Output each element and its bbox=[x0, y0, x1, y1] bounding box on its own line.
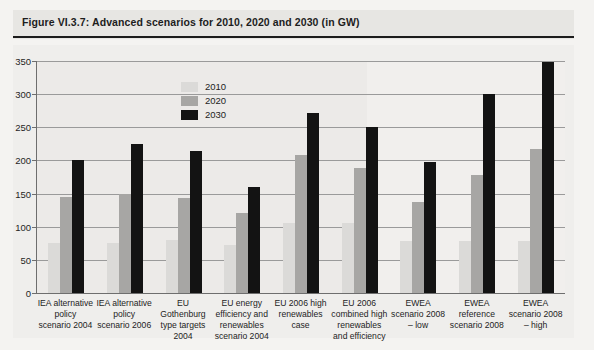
legend-swatch-2020 bbox=[181, 96, 198, 106]
x-axis-label: EU energy efficiency and renewables scen… bbox=[212, 298, 271, 342]
y-tick-label: 0 bbox=[26, 288, 31, 299]
legend-swatch-2030 bbox=[181, 110, 198, 120]
y-tick-label: 150 bbox=[15, 188, 31, 199]
bar-2020 bbox=[354, 168, 366, 293]
x-axis-label: EU 2006 high renewables case bbox=[271, 298, 330, 342]
bar-group bbox=[37, 61, 96, 293]
bar-2020 bbox=[471, 175, 483, 293]
bar-group bbox=[330, 61, 389, 293]
bar-2030 bbox=[366, 127, 378, 293]
bar-2030 bbox=[483, 94, 495, 293]
bar-2030 bbox=[190, 151, 202, 294]
bar-group bbox=[506, 61, 565, 293]
bar-2020 bbox=[295, 155, 307, 293]
bar-group bbox=[272, 61, 331, 293]
bar-2030 bbox=[542, 62, 554, 293]
legend-label: 2010 bbox=[205, 81, 226, 92]
y-tick-label: 50 bbox=[20, 254, 31, 265]
chart-legend: 201020202030 bbox=[181, 81, 226, 120]
bar-2020 bbox=[119, 194, 131, 293]
x-axis-labels: IEA alternative policy scenario 2004IEA … bbox=[36, 298, 565, 342]
bar-2030 bbox=[72, 160, 84, 293]
bar-2020 bbox=[530, 149, 542, 293]
legend-item: 2010 bbox=[181, 81, 226, 92]
page-title: Figure VI.3.7: Advanced scenarios for 20… bbox=[22, 16, 360, 28]
figure-title-band: Figure VI.3.7: Advanced scenarios for 20… bbox=[13, 10, 574, 39]
bar-2020 bbox=[236, 213, 248, 293]
bar-2010 bbox=[400, 241, 412, 293]
chart-frame: 050100150200250300350 201020202030 bbox=[13, 45, 574, 338]
bar-2010 bbox=[224, 245, 236, 293]
bar-group bbox=[389, 61, 448, 293]
y-tick-label: 200 bbox=[15, 155, 31, 166]
bar-2010 bbox=[166, 240, 178, 293]
x-axis-label: EU Gothenburg type targets 2004 bbox=[154, 298, 213, 342]
legend-item: 2020 bbox=[181, 95, 226, 106]
bar-2020 bbox=[60, 197, 72, 293]
legend-label: 2030 bbox=[205, 109, 226, 120]
bar-2030 bbox=[424, 162, 436, 293]
bar-2010 bbox=[518, 241, 530, 293]
bar-2020 bbox=[178, 198, 190, 293]
bar-2010 bbox=[107, 243, 119, 293]
x-axis-label: EWEA scenario 2008 – low bbox=[389, 298, 448, 342]
y-tick-mark bbox=[32, 293, 37, 294]
bar-2020 bbox=[412, 202, 424, 293]
bar-2030 bbox=[131, 144, 143, 293]
bar-2010 bbox=[459, 241, 471, 293]
bar-2030 bbox=[307, 113, 319, 293]
y-tick-label: 250 bbox=[15, 122, 31, 133]
bar-2010 bbox=[342, 223, 354, 293]
bar-groups bbox=[37, 61, 565, 293]
y-tick-label: 300 bbox=[15, 89, 31, 100]
bar-group bbox=[96, 61, 155, 293]
x-axis-label: EWEA reference scenario 2008 bbox=[447, 298, 506, 342]
x-axis-label: IEA alternative policy scenario 2006 bbox=[95, 298, 154, 342]
y-tick-label: 100 bbox=[15, 221, 31, 232]
plot-area: 050100150200250300350 bbox=[36, 61, 565, 294]
figure-page: Figure VI.3.7: Advanced scenarios for 20… bbox=[0, 0, 594, 350]
title-divider bbox=[13, 36, 574, 38]
x-axis-label: IEA alternative policy scenario 2004 bbox=[36, 298, 95, 342]
legend-swatch-2010 bbox=[181, 82, 198, 92]
bar-2010 bbox=[283, 223, 295, 293]
legend-label: 2020 bbox=[205, 95, 226, 106]
y-tick-label: 350 bbox=[15, 56, 31, 67]
x-axis-label: EU 2006 combined high renewables and eff… bbox=[330, 298, 389, 342]
legend-item: 2030 bbox=[181, 109, 226, 120]
bar-2010 bbox=[48, 243, 60, 293]
x-axis-label: EWEA scenario 2008 – high bbox=[506, 298, 565, 342]
bar-2030 bbox=[248, 187, 260, 293]
bar-group bbox=[448, 61, 507, 293]
